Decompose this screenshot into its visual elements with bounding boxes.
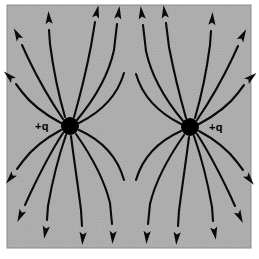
charge-label-right: +q [209,121,223,133]
charge-label-left: +q [35,120,49,132]
charge-dot-right [181,118,199,136]
field-line-figure: +q +q [0,0,259,259]
electric-field-diagram: +q +q [0,0,259,259]
charge-dot-left [61,117,79,135]
